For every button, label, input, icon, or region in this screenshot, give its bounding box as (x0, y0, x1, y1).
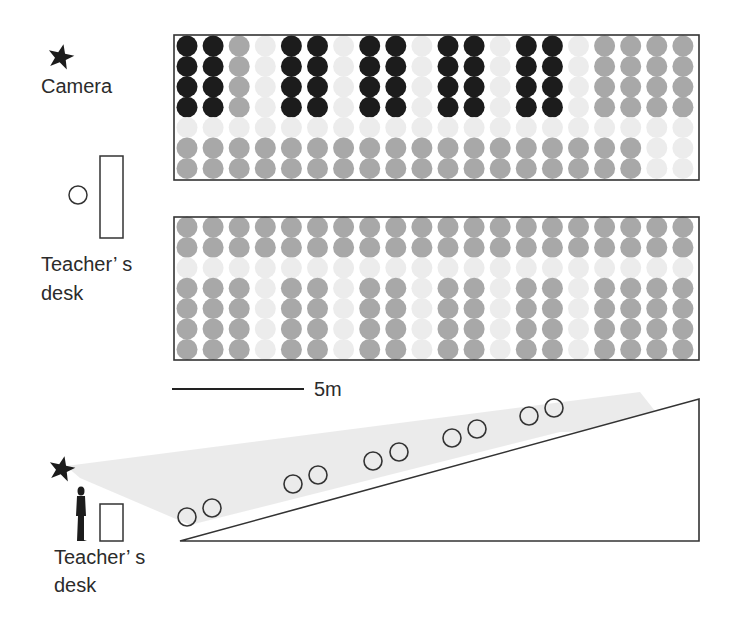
seat-gray (385, 158, 406, 179)
seat-light (229, 257, 250, 278)
seat-black (438, 56, 459, 77)
seat-gray (333, 158, 354, 179)
seat-light (333, 319, 354, 340)
seat-black (177, 97, 198, 118)
seat-gray (568, 237, 589, 258)
seat-light (490, 339, 511, 360)
seat-gray (411, 158, 432, 179)
seat-gray (281, 217, 302, 238)
seat-gray (568, 138, 589, 159)
seat-gray (516, 319, 537, 340)
seat-gray (255, 138, 276, 159)
seat-gray (307, 339, 328, 360)
seat-gray (464, 319, 485, 340)
seat-gray (542, 158, 563, 179)
seat-black (203, 56, 224, 77)
seat-gray (542, 237, 563, 258)
seat-light (255, 117, 276, 138)
seat-black (516, 56, 537, 77)
seat-gray (203, 237, 224, 258)
seat-gray (359, 217, 380, 238)
seat-gray (229, 56, 250, 77)
teacher-desk-side (100, 504, 123, 541)
seat-gray (203, 138, 224, 159)
seat-light (359, 257, 380, 278)
seat-gray (307, 217, 328, 238)
seat-light (568, 56, 589, 77)
seat-gray (359, 339, 380, 360)
seat-light (333, 339, 354, 360)
seat-light (646, 257, 667, 278)
seat-gray (411, 217, 432, 238)
seat-gray (307, 237, 328, 258)
seat-gray (646, 237, 667, 258)
seat-gray (255, 217, 276, 238)
seat-light (203, 257, 224, 278)
seat-gray (438, 339, 459, 360)
seat-black (203, 76, 224, 97)
seat-gray (646, 319, 667, 340)
seat-gray (203, 158, 224, 179)
seat-gray (385, 298, 406, 319)
seat-gray (672, 319, 693, 340)
seat-gray (594, 76, 615, 97)
seat-gray (281, 237, 302, 258)
seat-gray (203, 217, 224, 238)
seat-light (281, 117, 302, 138)
seat-gray (516, 217, 537, 238)
seat-gray (229, 138, 250, 159)
seat-gray (516, 237, 537, 258)
seat-light (516, 117, 537, 138)
seat-black (438, 97, 459, 118)
seat-light (568, 97, 589, 118)
seat-gray (516, 278, 537, 299)
seat-light (411, 319, 432, 340)
seat-gray (594, 138, 615, 159)
seat-light (203, 117, 224, 138)
teacher-person-icon (76, 487, 87, 542)
seat-light (307, 257, 328, 278)
seat-gray (438, 298, 459, 319)
seat-gray (333, 237, 354, 258)
seat-light (568, 339, 589, 360)
teacher-desk-label-line1: Teacher’ s (41, 253, 132, 275)
teacher-desk-top (100, 156, 123, 238)
camera-label: Camera (41, 75, 112, 97)
seat-gray (385, 237, 406, 258)
seat-gray (229, 298, 250, 319)
seat-light (255, 257, 276, 278)
seat-gray (385, 217, 406, 238)
seat-black (385, 76, 406, 97)
seat-gray (281, 138, 302, 159)
seat-gray (359, 138, 380, 159)
seat-light (411, 339, 432, 360)
seat-light (411, 278, 432, 299)
seat-black (542, 56, 563, 77)
seat-light (464, 117, 485, 138)
seat-black (516, 76, 537, 97)
seat-gray (359, 298, 380, 319)
seat-light (490, 257, 511, 278)
seat-light (516, 257, 537, 278)
seat-gray (203, 319, 224, 340)
seat-gray (307, 138, 328, 159)
seat-gray (620, 339, 641, 360)
seat-light (568, 76, 589, 97)
seat-light (411, 257, 432, 278)
seat-light (177, 257, 198, 278)
seat-light (333, 76, 354, 97)
seat-gray (281, 298, 302, 319)
seat-gray (594, 36, 615, 57)
seat-gray (385, 278, 406, 299)
seat-gray (620, 298, 641, 319)
seat-gray (594, 56, 615, 77)
seat-gray (542, 138, 563, 159)
seat-light (672, 257, 693, 278)
seat-gray (438, 217, 459, 238)
seat-gray (620, 138, 641, 159)
seat-light (333, 298, 354, 319)
seat-gray (672, 36, 693, 57)
seat-light (333, 257, 354, 278)
seat-gray (516, 138, 537, 159)
seat-gray (646, 217, 667, 238)
